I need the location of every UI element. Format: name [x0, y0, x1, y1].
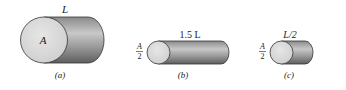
area-label-c-denominator: 2	[261, 52, 265, 61]
cylinder-c-face	[270, 41, 293, 64]
face-label-a: A	[39, 34, 47, 46]
length-label-a: L	[61, 3, 68, 15]
cylinder-b-face	[147, 41, 170, 64]
cylinder-figure: A L (a) A 2 1.5 L (b) A 2 L/2 (c)	[0, 0, 346, 90]
length-label-c: L/2	[282, 29, 296, 40]
area-label-c: A 2	[259, 42, 266, 61]
length-label-b: 1.5 L	[179, 29, 200, 40]
area-label-b-numerator: A	[136, 42, 142, 51]
area-label-c-numerator: A	[259, 42, 265, 51]
cylinder-a: A L (a)	[21, 3, 105, 80]
area-label-b: A 2	[136, 42, 143, 61]
area-label-b-denominator: 2	[138, 52, 142, 61]
cylinder-b: A 2 1.5 L (b)	[136, 29, 229, 80]
caption-c: (c)	[284, 70, 294, 80]
cylinder-c: A 2 L/2 (c)	[259, 29, 313, 80]
caption-b: (b)	[178, 70, 189, 80]
caption-a: (a)	[55, 70, 66, 80]
